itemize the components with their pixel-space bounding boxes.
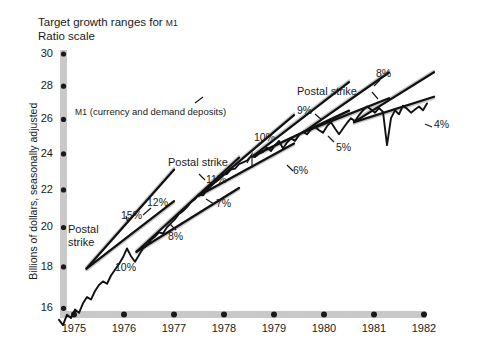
rate-label-5: 5% xyxy=(336,141,351,153)
leader-rate-11 xyxy=(199,174,205,180)
postal-strike-3: Postal strike xyxy=(297,85,357,98)
rate-label-4: 4% xyxy=(434,118,449,130)
x-tick-dot xyxy=(271,312,277,318)
rate-label-10b: 10% xyxy=(254,131,275,143)
rate-label-6: 6% xyxy=(293,164,308,176)
x-tick-dot xyxy=(221,312,227,318)
leader-rate-12 xyxy=(195,97,203,103)
target-range-lines xyxy=(87,72,435,268)
target-band-cone-5 xyxy=(304,71,389,130)
y-tick-dot xyxy=(61,264,66,269)
x-tick-dot xyxy=(171,312,177,318)
rate-label-7: 7% xyxy=(216,197,231,209)
postal-strike-2: Postal strike xyxy=(168,156,228,169)
leader-rate-7 xyxy=(206,199,214,204)
chart-plot-area xyxy=(0,0,485,355)
y-tick-dot xyxy=(61,225,66,230)
series-label: M1 (currency and demand deposits) xyxy=(75,106,226,117)
y-tick-label: 24 xyxy=(31,147,53,160)
chart-subtitle: Ratio scale xyxy=(38,30,95,44)
x-tick-dot xyxy=(421,312,427,318)
y-axis-spine xyxy=(60,50,67,318)
leader-postal-strike-3 xyxy=(372,92,378,99)
chart-figure: Target growth ranges for M1 Ratio scale … xyxy=(0,0,485,355)
leader-rate-15 xyxy=(143,208,151,215)
y-tick-label: 26 xyxy=(31,112,53,125)
y-tick-dot xyxy=(61,187,66,192)
title-m1-smallcaps: M1 xyxy=(166,18,178,28)
rate-label-8-left: 8% xyxy=(168,230,183,242)
postal-strike-1-line2: strike xyxy=(68,236,94,249)
rate-label-10: 10% xyxy=(115,261,136,273)
rate-label-12: 12% xyxy=(147,196,168,208)
y-tick-label: 30 xyxy=(31,47,53,60)
postal-strike-1-line1: Postal xyxy=(68,223,99,236)
rate-label-15: 15% xyxy=(121,209,142,221)
x-tick-label: 1979 xyxy=(252,322,296,335)
x-tick-label: 1980 xyxy=(302,322,346,335)
y-tick-label: 16 xyxy=(31,301,53,314)
y-tick-dot xyxy=(61,84,66,89)
y-tick-dot xyxy=(61,117,66,122)
x-tick-dot xyxy=(121,312,127,318)
target-line-cone-3-lower xyxy=(199,143,294,195)
y-tick-label: 22 xyxy=(31,183,53,196)
x-tick-label: 1978 xyxy=(202,322,246,335)
x-tick-dot xyxy=(371,312,377,318)
leader-rate-5 xyxy=(328,136,334,142)
y-tick-label: 20 xyxy=(31,220,53,233)
y-tick-label: 18 xyxy=(31,260,53,273)
y-tick-dot xyxy=(61,151,66,156)
leader-rate-4 xyxy=(425,124,432,127)
m1-series-line xyxy=(59,103,427,325)
target-line-cone-6-upper xyxy=(354,72,434,122)
x-tick-dot xyxy=(321,312,327,318)
y-tick-dot xyxy=(61,51,66,56)
x-tick-label: 1977 xyxy=(152,322,196,335)
chart-title: Target growth ranges for M1 xyxy=(38,16,178,30)
axes xyxy=(60,50,426,318)
x-tick-label: 1982 xyxy=(402,322,446,335)
x-tick-label: 1975 xyxy=(52,322,96,335)
series-label-m1-smallcaps: M1 xyxy=(75,107,87,117)
rate-label-11: 11% xyxy=(206,173,226,185)
y-tick-label: 28 xyxy=(31,79,53,92)
y-tick-dot xyxy=(61,306,66,311)
rate-label-8-right: 8% xyxy=(376,67,391,79)
rate-label-9: 9% xyxy=(297,104,312,116)
x-tick-label: 1976 xyxy=(102,322,146,335)
x-tick-label: 1981 xyxy=(352,322,396,335)
